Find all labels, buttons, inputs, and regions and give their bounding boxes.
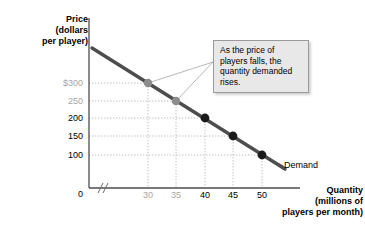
y-tick-label-150: 150 (68, 131, 83, 141)
data-point-35-250 (172, 97, 180, 105)
data-point-30-300 (144, 79, 152, 87)
x-tick-label-45: 45 (228, 190, 238, 200)
y-tick-label-100: 100 (68, 150, 83, 160)
data-point-40-200 (201, 114, 210, 123)
x-tick-label-40: 40 (200, 190, 210, 200)
demand-curve-chart: Price (dollars per player) Quantity (mil… (0, 0, 365, 245)
horizontal-gridlines (89, 83, 262, 155)
demand-curve-label: Demand (284, 160, 318, 170)
data-point-45-150 (229, 132, 238, 141)
x-tick-label-50: 50 (257, 190, 267, 200)
y-tick-label-250: 250 (68, 96, 83, 106)
x-tick-label-30: 30 (143, 190, 153, 200)
y-tick-label-200: 200 (68, 113, 83, 123)
origin-label: 0 (78, 189, 83, 199)
annotation-callout: As the price of players falls, the quant… (213, 40, 309, 93)
data-point-50-100 (258, 151, 267, 160)
y-axis-title: Price (dollars per player) (42, 14, 88, 47)
callout-leader-lines (148, 62, 213, 101)
vertical-gridlines (148, 83, 262, 188)
x-axis-title: Quantity (millions of players per month) (279, 185, 363, 218)
y-tick-label-300: $300 (63, 78, 83, 88)
x-tick-label-35: 35 (171, 190, 181, 200)
